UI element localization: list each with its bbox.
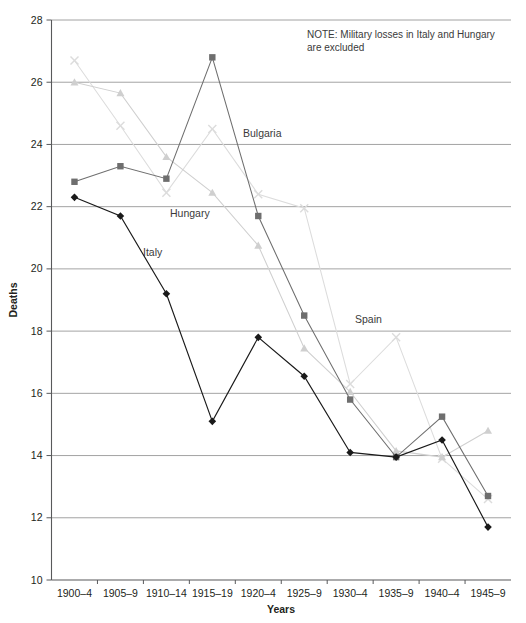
series-label-bulgaria: Bulgaria (243, 127, 282, 139)
note-line-1: NOTE: Military losses in Italy and Hunga… (307, 29, 495, 40)
y-tick-label: 22 (31, 200, 43, 212)
marker-diamond (209, 418, 217, 426)
x-tick-label: 1945–9 (471, 587, 506, 599)
marker-square (301, 312, 307, 318)
marker-diamond (163, 290, 171, 298)
marker-x (70, 56, 78, 64)
marker-x (392, 333, 400, 341)
x-tick-label: 1940–4 (425, 587, 460, 599)
y-tick-label: 12 (31, 511, 43, 523)
marker-diamond (71, 194, 79, 202)
y-tick-label: 28 (31, 14, 43, 26)
marker-diamond (117, 212, 125, 220)
line-chart: 10121416182022242628 1900–41905–91910–14… (0, 0, 526, 623)
marker-square (117, 163, 123, 169)
marker-x (162, 189, 170, 197)
marker-triangle (484, 427, 492, 434)
x-tick-label: 1930–4 (333, 587, 368, 599)
x-tick-label: 1900–4 (57, 587, 92, 599)
data-series (70, 54, 492, 531)
marker-x (346, 380, 354, 388)
series-bulgaria (71, 54, 491, 499)
y-tick-label: 10 (31, 574, 43, 586)
marker-square (255, 213, 261, 219)
marker-square (347, 396, 353, 402)
series-spain (70, 56, 492, 503)
marker-triangle (162, 153, 170, 160)
y-tick-label: 16 (31, 387, 43, 399)
axis-lines (52, 20, 512, 580)
marker-square (209, 54, 215, 60)
marker-triangle (208, 189, 216, 196)
x-tick-label: 1915–19 (192, 587, 233, 599)
marker-square (439, 413, 445, 419)
marker-square (485, 493, 491, 499)
marker-diamond (484, 523, 492, 531)
y-tick-label: 24 (31, 138, 43, 150)
y-axis-title: Deaths (7, 282, 19, 317)
marker-square (163, 175, 169, 181)
x-tick-label: 1935–9 (379, 587, 414, 599)
series-line (74, 57, 488, 496)
marker-x (300, 204, 308, 212)
x-tick-label: 1905–9 (103, 587, 138, 599)
axis-ticks (47, 20, 466, 584)
y-tick-labels: 10121416182022242628 (31, 14, 43, 586)
marker-diamond (438, 436, 446, 444)
series-label-spain: Spain (355, 313, 382, 325)
chart-svg: 10121416182022242628 1900–41905–91910–14… (0, 0, 526, 623)
series-line (74, 197, 488, 527)
series-label-italy: Italy (143, 246, 163, 258)
marker-triangle (300, 344, 308, 351)
marker-x (116, 122, 124, 130)
x-tick-label: 1925–9 (287, 587, 322, 599)
series-italy (71, 194, 492, 531)
marker-square (71, 179, 77, 185)
x-tick-label: 1910–14 (146, 587, 187, 599)
y-tick-label: 26 (31, 76, 43, 88)
y-tick-label: 14 (31, 449, 43, 461)
series-label-hungary: Hungary (170, 207, 210, 219)
marker-x (254, 190, 262, 198)
marker-x (208, 125, 216, 133)
marker-diamond (346, 449, 354, 457)
note-line-2: are excluded (307, 42, 364, 53)
x-tick-labels: 1900–41905–91910–141915–191920–41925–919… (57, 587, 506, 599)
x-axis-title: Years (267, 603, 295, 615)
x-tick-label: 1920–4 (241, 587, 276, 599)
y-tick-label: 20 (31, 262, 43, 274)
y-tick-label: 18 (31, 325, 43, 337)
